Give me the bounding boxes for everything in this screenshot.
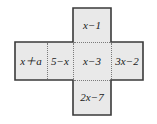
net-cell-right-outer: 3x−2: [111, 42, 143, 80]
net-cell-left-inner: 5−x: [47, 42, 73, 80]
net-cell-top-expression: x−1: [83, 20, 101, 31]
net-cell-bottom: 2x−7: [73, 80, 111, 115]
net-cell-right-outer-expression: 3x−2: [115, 56, 138, 67]
net-cell-left-outer: x＋a: [15, 42, 47, 80]
net-cell-center: x−3: [73, 42, 111, 80]
net-cell-left-outer-expression: x＋a: [20, 56, 41, 67]
net-cell-top: x−1: [73, 8, 111, 42]
net-cell-bottom-expression: 2x−7: [80, 92, 103, 103]
net-cell-left-inner-expression: 5−x: [51, 56, 69, 67]
net-cell-center-expression: x−3: [83, 56, 101, 67]
cube-net-figure: x−1 x＋a 5−x x−3 3x−2 2x−7: [0, 0, 157, 124]
